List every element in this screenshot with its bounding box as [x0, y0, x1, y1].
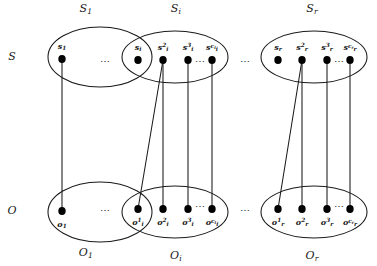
group-label-Si: Si	[171, 2, 181, 16]
node-orcr[interactable]	[346, 205, 353, 213]
node-label-oi1: o1i	[132, 217, 144, 227]
group-label-Oi: Oi	[170, 249, 182, 263]
node-label-orcr: ocrr	[343, 217, 357, 227]
node-si2[interactable]	[159, 56, 166, 64]
node-sr2[interactable]	[298, 56, 305, 64]
node-label-srcr: scrr	[343, 42, 356, 52]
node-ellipsis-Si: ⋯	[195, 56, 206, 67]
group-ellipsis-2: ⋯	[240, 56, 251, 67]
node-srcr[interactable]	[346, 56, 353, 64]
node-or1[interactable]	[274, 205, 281, 213]
side-label-S: S	[8, 50, 16, 63]
node-label-si2: s2i	[158, 42, 169, 52]
group-label-O1: O1	[79, 246, 93, 260]
group-label-S1: S1	[80, 2, 93, 16]
node-or2[interactable]	[298, 205, 305, 213]
diagram-canvas: s1S1sis2is3iscii⋯Sisrs2rs3rscrr⋯Sro1O1o1…	[0, 0, 377, 266]
node-label-or2: o2r	[296, 217, 308, 227]
side-label-O: O	[7, 204, 16, 217]
node-label-s1: s1	[58, 41, 67, 51]
node-oi2[interactable]	[159, 205, 166, 213]
node-label-si1: si	[135, 42, 142, 52]
node-label-oi3: o3i	[182, 217, 194, 227]
node-label-sr3: s3r	[321, 42, 333, 52]
group-ellipses-layer	[48, 27, 367, 242]
node-ellipsis-Or: ⋯	[334, 201, 345, 212]
node-sr1[interactable]	[274, 56, 281, 64]
node-label-sici: scii	[206, 42, 218, 52]
edges-layer	[62, 59, 350, 211]
node-sr3[interactable]	[323, 56, 330, 64]
group-ellipsis-1: ⋯	[100, 205, 111, 216]
node-ellipsis-Sr: ⋯	[334, 56, 345, 67]
node-label-oici: ocii	[206, 217, 219, 227]
node-si3[interactable]	[184, 56, 191, 64]
node-label-o1: o1	[57, 219, 66, 229]
node-label-or3: o3r	[321, 217, 333, 227]
node-label-sr2: s2r	[296, 42, 308, 52]
node-o1[interactable]	[58, 207, 65, 215]
node-label-sr1: sr	[274, 42, 282, 52]
node-sici[interactable]	[208, 56, 215, 64]
group-ellipsis-0: ⋯	[100, 56, 111, 67]
group-label-Sr: Sr	[306, 2, 318, 16]
node-or3[interactable]	[323, 205, 330, 213]
group-ellipsis-3: ⋯	[240, 205, 251, 216]
node-label-or1: o1r	[272, 217, 284, 227]
node-si1[interactable]	[134, 56, 141, 64]
node-label-si3: s3i	[183, 42, 194, 52]
node-oici[interactable]	[208, 205, 215, 213]
node-label-oi2: o2i	[157, 217, 169, 227]
node-oi1[interactable]	[134, 205, 141, 213]
node-s1[interactable]	[58, 55, 65, 63]
group-label-Or: Or	[305, 249, 318, 263]
node-oi3[interactable]	[184, 205, 191, 213]
node-ellipsis-Oi: ⋯	[195, 201, 206, 212]
